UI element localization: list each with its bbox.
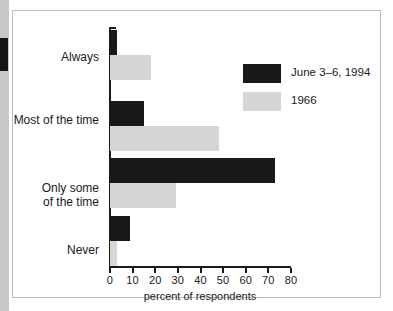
x-tick-40	[200, 268, 202, 273]
bar-1-3	[110, 241, 117, 266]
category-label-1: Most of the time	[14, 113, 99, 127]
bar-0-3	[110, 216, 130, 241]
category-label-3: Never	[67, 243, 99, 257]
category-label-2: Only some of the time	[42, 181, 99, 209]
legend-label-june-1994: June 3–6, 1994	[291, 66, 370, 78]
x-tick-30	[177, 268, 179, 273]
legend-swatch-1966	[243, 92, 281, 111]
x-tick-label-80: 80	[278, 274, 304, 286]
plot-area: 01020304050607080 percent of respondents…	[0, 0, 393, 311]
y-axis-top-cap	[109, 27, 116, 29]
bar-0-1	[110, 101, 144, 126]
bar-1-2	[110, 183, 176, 208]
x-tick-50	[222, 268, 224, 273]
x-tick-80	[290, 268, 292, 273]
x-tick-10	[132, 268, 134, 273]
x-tick-60	[245, 268, 247, 273]
x-tick-0	[109, 268, 111, 273]
bar-0-2	[110, 158, 275, 183]
bar-1-0	[110, 55, 151, 80]
x-tick-70	[267, 268, 269, 273]
x-axis-title: percent of respondents	[109, 290, 291, 302]
category-label-0: Always	[61, 50, 99, 64]
legend-label-1966: 1966	[291, 94, 317, 106]
bar-1-1	[110, 126, 219, 151]
x-tick-20	[154, 268, 156, 273]
chart-figure: 01020304050607080 percent of respondents…	[0, 0, 393, 311]
legend-swatch-june-1994	[243, 64, 281, 83]
bar-0-0	[110, 30, 117, 55]
